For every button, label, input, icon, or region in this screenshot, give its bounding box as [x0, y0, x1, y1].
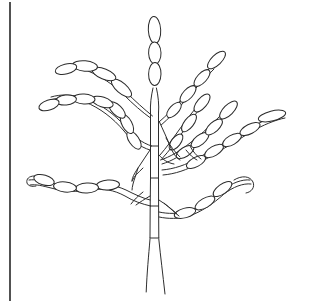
branch-upper-left-2 [37, 93, 151, 151]
branch-lower-right-1 [159, 177, 254, 221]
pod [203, 116, 225, 137]
branch-upper-right-1 [159, 48, 228, 125]
pod [203, 142, 226, 161]
pod [54, 61, 78, 76]
branch-upper-left-1 [54, 60, 152, 118]
pod [75, 182, 98, 193]
pod [37, 97, 60, 113]
pod [191, 91, 213, 114]
pod [164, 100, 184, 120]
stem-upper-sheath [150, 88, 158, 114]
left-branch-sheath [132, 150, 150, 190]
central-stem [146, 112, 165, 294]
pod [148, 42, 161, 64]
pod [148, 62, 161, 85]
pod [191, 67, 212, 89]
pod [179, 112, 199, 134]
pod [148, 16, 162, 44]
pod [205, 48, 228, 71]
terminal-spike [148, 16, 162, 85]
pod [217, 98, 240, 121]
pod [53, 181, 77, 193]
botanical-illustration [0, 0, 311, 303]
figure-canvas: Botanical line drawing of a branched pla… [0, 0, 311, 303]
pod [96, 179, 120, 191]
pod [238, 120, 262, 139]
